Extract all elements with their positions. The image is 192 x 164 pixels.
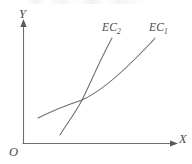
x-axis-arrowhead <box>170 140 178 146</box>
curve-label-ec1: EC1 <box>149 22 168 36</box>
curve-label-ec1-base: EC <box>149 21 164 33</box>
curve-label-ec2-base: EC <box>102 21 117 33</box>
origin-label: O <box>9 146 18 159</box>
curve-label-ec1-subscript: 1 <box>164 27 168 36</box>
curve-label-ec2: EC2 <box>102 22 121 36</box>
curve-label-ec2-subscript: 2 <box>117 27 121 36</box>
x-axis-label: X <box>179 133 187 146</box>
economics-curve-figure: Y X O EC2 EC1 <box>0 0 192 164</box>
curve-ec1 <box>38 38 155 118</box>
y-axis-label: Y <box>19 8 26 21</box>
